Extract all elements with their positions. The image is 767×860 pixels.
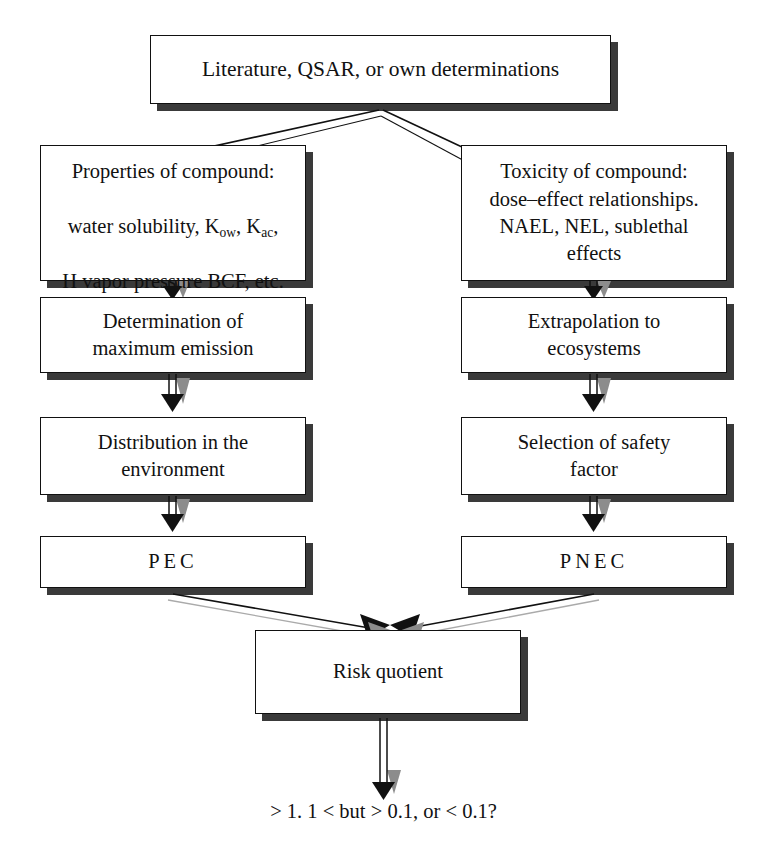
node-toxicity[interactable]: Toxicity of compound: dose–effect relati… [461,145,727,281]
node-pec-label: PEC [140,548,206,575]
properties-subscript-ow: ow [220,225,237,240]
node-safety-factor-label: Selection of safety factor [510,429,679,484]
node-toxicity-label: Toxicity of compound: dose–effect relati… [481,158,706,268]
node-properties[interactable]: Properties of compound: water solubility… [40,145,306,281]
flowchart-canvas: Literature, QSAR, or own determinations … [0,0,767,860]
properties-line-3: H vapor pressure BCF, etc. [62,270,284,292]
properties-line-2-pre: water solubility, K [68,215,220,237]
node-distribution-label: Distribution in the environment [90,429,256,484]
node-risk-quotient[interactable]: Risk quotient [255,630,521,714]
node-emission[interactable]: Determination of maximum emission [40,297,306,373]
properties-line-2-mid: , K [236,215,261,237]
node-distribution[interactable]: Distribution in the environment [40,417,306,495]
node-extrapolation-label: Extrapolation to ecosystems [520,308,669,363]
arrow-risk-to-caption [372,718,401,800]
outcome-caption: > 1. 1 < but > 0.1, or < 0.1? [0,800,767,823]
properties-subscript-ac: ac [261,225,273,240]
node-pnec[interactable]: PNEC [461,536,727,588]
node-emission-label: Determination of maximum emission [84,308,261,363]
node-pec[interactable]: PEC [40,536,306,588]
node-source-label: Literature, QSAR, or own determinations [194,55,567,84]
node-pnec-label: PNEC [552,548,636,575]
node-safety-factor[interactable]: Selection of safety factor [461,417,727,495]
node-source[interactable]: Literature, QSAR, or own determinations [150,35,611,104]
node-risk-quotient-label: Risk quotient [325,658,451,685]
node-extrapolation[interactable]: Extrapolation to ecosystems [461,297,727,373]
properties-line-2-post: , [273,215,278,237]
node-properties-label: Properties of compound: water solubility… [54,131,292,296]
properties-line-1: Properties of compound: [72,160,275,182]
